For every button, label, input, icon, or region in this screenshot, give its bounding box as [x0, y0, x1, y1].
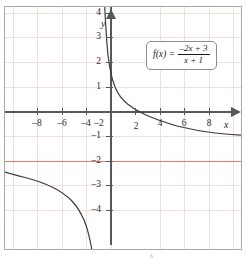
curve-left-branch	[5, 172, 93, 250]
x-tick-label: –6	[57, 119, 67, 129]
y-tick-label: –4	[85, 205, 101, 215]
y-axis-arrowhead	[106, 9, 116, 19]
x-tick	[86, 108, 87, 115]
x-tick-label: 6	[182, 119, 187, 129]
x-tick	[37, 108, 38, 115]
x-tick	[160, 108, 161, 115]
x-tick-label: 2	[134, 122, 139, 132]
y-tick-label: 1	[89, 82, 101, 92]
formula-equals: =	[169, 50, 174, 60]
y-tick	[106, 161, 113, 162]
y-tick	[106, 13, 113, 14]
y-tick-label: –3	[85, 180, 101, 190]
y-tick-label: –1	[85, 131, 101, 141]
formula-fraction: –2x + 3 x + 1	[178, 44, 210, 66]
x-tick-label: 4	[158, 119, 163, 129]
y-tick	[106, 37, 113, 38]
y-tick-label: 2	[89, 57, 101, 67]
x-tick-label: –4	[81, 119, 91, 129]
y-tick	[106, 62, 113, 63]
y-tick	[106, 136, 113, 137]
formula-denominator: x + 1	[182, 56, 205, 65]
y-tick	[106, 87, 113, 88]
curve-right-branch	[105, 6, 242, 135]
x-tick	[184, 108, 185, 115]
y-tick	[106, 210, 113, 211]
y-tick-label: –2	[85, 156, 101, 166]
y-tick-label: 4	[89, 8, 101, 18]
bottom-artifact-mark: s	[150, 252, 153, 260]
x-tick	[209, 108, 210, 115]
x-tick-label: –2	[94, 119, 104, 129]
y-tick	[106, 185, 113, 186]
x-tick	[135, 108, 136, 115]
x-tick	[111, 108, 112, 115]
chart-figure: 4 3 2 1 –1 –2 –3 –4 –8 –6 –4 –2 2 4 6 8 …	[0, 0, 246, 264]
function-formula-box: f(x) = –2x + 3 x + 1	[146, 41, 217, 70]
formula-numerator: –2x + 3	[178, 44, 210, 53]
y-tick-label: 3	[89, 32, 101, 42]
x-axis-label: x	[224, 120, 228, 130]
x-axis-arrowhead	[231, 107, 241, 117]
x-tick-label: –8	[32, 119, 42, 129]
formula-lhs: f(x)	[153, 50, 166, 60]
x-tick	[62, 108, 63, 115]
x-tick-label: 8	[207, 119, 212, 129]
y-axis-label: y	[101, 19, 105, 29]
